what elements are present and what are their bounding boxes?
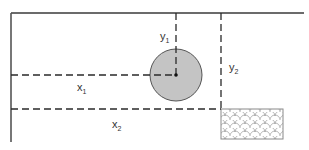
hatched-reference-block	[221, 109, 283, 139]
diagram-canvas: y1 y2 x1 x2	[0, 0, 309, 150]
label-x1: x1	[77, 81, 87, 95]
circle-center-point	[174, 73, 178, 77]
label-y1: y1	[160, 30, 170, 44]
label-x2: x2	[112, 118, 122, 132]
label-y2: y2	[229, 61, 239, 75]
